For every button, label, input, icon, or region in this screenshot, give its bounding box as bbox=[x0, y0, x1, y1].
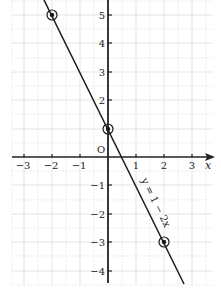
y-tick-label: 2 bbox=[99, 95, 105, 106]
minor-grid bbox=[12, 0, 213, 285]
y-tick-label: 3 bbox=[99, 67, 105, 78]
y-tick-label: 5 bbox=[99, 10, 105, 21]
x-axis-label: x bbox=[205, 159, 212, 172]
x-tick-label: 2 bbox=[161, 160, 167, 171]
y-tick-label: −3 bbox=[90, 237, 105, 248]
x-tick-label: −3 bbox=[16, 160, 31, 171]
x-tick-label: −1 bbox=[72, 160, 87, 171]
chart: −3 −2 −1 1 2 3 x O 5 4 3 2 −1 −2 −3 −4 bbox=[0, 0, 221, 290]
origin-label: O bbox=[97, 144, 105, 155]
chart-canvas: −3 −2 −1 1 2 3 x O 5 4 3 2 −1 −2 −3 −4 bbox=[0, 0, 221, 290]
x-tick-label: 3 bbox=[189, 160, 195, 171]
x-tick-labels: −3 −2 −1 1 2 3 bbox=[16, 160, 196, 171]
y-tick-label: −4 bbox=[90, 266, 105, 277]
x-tick-label: −2 bbox=[44, 160, 59, 171]
x-tick-label: 1 bbox=[133, 160, 139, 171]
y-tick-label: 4 bbox=[99, 38, 105, 49]
y-tick-label: −1 bbox=[90, 180, 105, 191]
y-tick-label: −2 bbox=[90, 209, 105, 220]
